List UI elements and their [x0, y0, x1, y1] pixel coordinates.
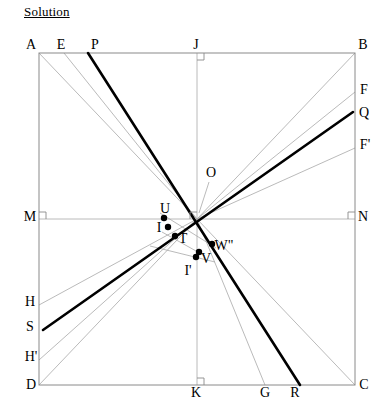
segment-A-to-center	[39, 53, 197, 219]
label-J: J	[193, 38, 198, 52]
label-F: F	[360, 83, 368, 97]
label-H-prime: H'	[25, 350, 38, 364]
label-K: K	[191, 386, 201, 400]
segment-H-to-center	[39, 219, 197, 305]
label-F-prime: F'	[360, 138, 370, 152]
right-angle-at-M	[39, 212, 46, 219]
label-H: H	[25, 295, 35, 309]
label-S: S	[26, 320, 34, 334]
label-I-prime: I'	[184, 264, 191, 278]
label-R: R	[290, 386, 299, 400]
label-T: T	[179, 232, 188, 246]
segment-center-to-Fp	[197, 148, 355, 219]
label-W-dprime: W"	[215, 239, 234, 253]
label-M: M	[24, 210, 36, 224]
segment-center-to-B	[197, 53, 355, 219]
point-I	[165, 224, 171, 230]
figure-canvas: Solution AEPJBFQF'OMNUITW"VI'HSH'DKGRC	[0, 0, 391, 417]
geometry-diagram	[0, 0, 391, 417]
segment-S-to-Q	[43, 112, 353, 330]
thin-lines-group	[39, 53, 355, 385]
label-O: O	[206, 166, 216, 180]
label-A: A	[26, 38, 36, 52]
label-U: U	[160, 202, 170, 216]
label-I: I	[157, 221, 162, 235]
segment-center-to-F	[197, 92, 355, 219]
label-N: N	[358, 210, 368, 224]
label-V: V	[201, 252, 211, 266]
segment-Hp-to-center	[39, 219, 197, 360]
label-Q: Q	[359, 106, 369, 120]
label-P: P	[91, 38, 99, 52]
label-C: C	[359, 378, 368, 392]
point-T	[172, 233, 178, 239]
label-B: B	[358, 38, 367, 52]
segment-D-to-center	[39, 219, 197, 385]
label-E: E	[57, 38, 66, 52]
right-angle-at-N	[348, 212, 355, 219]
right-angle-at-J	[197, 53, 204, 60]
label-G: G	[260, 386, 270, 400]
label-D: D	[26, 378, 36, 392]
right-angle-at-K	[197, 378, 204, 385]
